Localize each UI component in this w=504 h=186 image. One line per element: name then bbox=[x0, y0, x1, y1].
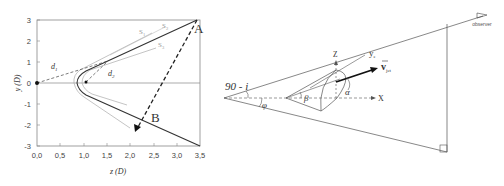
label-s1: S1 bbox=[139, 28, 145, 37]
label-alpha: α bbox=[345, 87, 350, 97]
lower-line bbox=[224, 98, 447, 152]
y-tick: 0 bbox=[27, 79, 31, 88]
label-90-minus-i: 90 - i bbox=[225, 80, 248, 92]
x-tick: 1,0 bbox=[79, 151, 89, 160]
cone-edge-top bbox=[286, 70, 336, 98]
y-axis-label: y (D) bbox=[13, 74, 22, 92]
observer-eye-icon bbox=[477, 13, 487, 18]
y-tick: -1 bbox=[24, 100, 31, 109]
cone-axis-line bbox=[286, 79, 340, 98]
origin-point bbox=[35, 81, 39, 85]
focus-point bbox=[85, 81, 88, 84]
label-v-jet: vjet bbox=[381, 61, 392, 73]
x-tick: 3,0 bbox=[172, 151, 182, 160]
x-tick: 2,5 bbox=[149, 151, 159, 160]
label-b: B bbox=[151, 110, 160, 125]
x-tick: 3,5 bbox=[195, 151, 205, 160]
y-tick: -3 bbox=[24, 142, 31, 151]
label-ye-axis: ye bbox=[369, 48, 377, 59]
x-arrow-head bbox=[371, 96, 376, 100]
label-d2: d2 bbox=[108, 69, 115, 79]
y-tick: 3 bbox=[27, 16, 31, 25]
arrow-head bbox=[134, 124, 141, 132]
label-observer: observer bbox=[472, 21, 492, 27]
curve-s2 bbox=[110, 27, 165, 55]
z-arrow-head bbox=[334, 60, 338, 65]
label-s3: S3 bbox=[158, 41, 165, 50]
jet-arrow-head bbox=[370, 67, 378, 73]
ye-axis-line bbox=[310, 55, 365, 88]
y-tick: 2 bbox=[27, 37, 31, 46]
label-a: A bbox=[194, 21, 204, 36]
x-tick: 0,0 bbox=[32, 151, 42, 160]
x-tick: 1,5 bbox=[102, 151, 112, 160]
label-phi: φ bbox=[262, 100, 267, 110]
y-tick: 1 bbox=[27, 58, 31, 67]
x-axis-label: z (D) bbox=[109, 167, 127, 176]
right-diagram: 90 - i φ β α Z X ye vjet observer bbox=[224, 13, 492, 152]
label-x-axis: X bbox=[378, 94, 384, 103]
curve-s1 bbox=[74, 33, 152, 128]
label-d1: d1 bbox=[51, 62, 58, 72]
angle-arc-90-i bbox=[246, 91, 248, 98]
label-z-axis: Z bbox=[333, 50, 338, 59]
upper-sight-line bbox=[224, 16, 483, 98]
figure: 3 2 1 0 -1 -2 -3 0,0 0,5 1,0 1,5 2,0 2,5… bbox=[0, 0, 504, 186]
cone-rim-back bbox=[321, 70, 336, 111]
label-beta: β bbox=[303, 93, 309, 103]
x-tick: 2,0 bbox=[125, 151, 135, 160]
x-tick: 0,5 bbox=[55, 151, 65, 160]
y-tick: -2 bbox=[24, 121, 31, 130]
left-plot: 3 2 1 0 -1 -2 -3 0,0 0,5 1,0 1,5 2,0 2,5… bbox=[13, 16, 205, 176]
d1-line bbox=[37, 61, 108, 83]
label-s2: S2 bbox=[162, 22, 168, 31]
curve-s3 bbox=[82, 48, 156, 105]
